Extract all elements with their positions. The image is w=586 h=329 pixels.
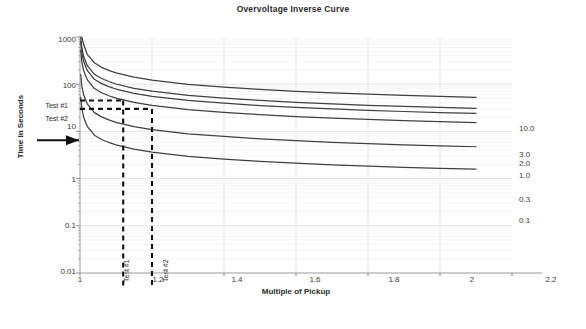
pickup-arrow-icon bbox=[37, 135, 79, 145]
plot-area bbox=[0, 0, 586, 329]
annotations-group bbox=[37, 101, 152, 289]
overvoltage-inverse-curve-chart: Overvoltage Inverse Curve Time in Second… bbox=[0, 0, 586, 329]
gridlines-group bbox=[80, 37, 512, 273]
axes-group bbox=[80, 37, 542, 273]
